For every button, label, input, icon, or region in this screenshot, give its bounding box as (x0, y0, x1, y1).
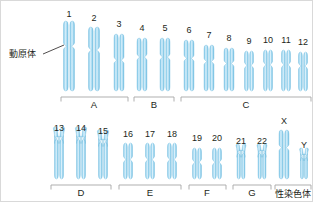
chromosome-number-3: 3 (116, 19, 121, 29)
chromosome-17 (146, 143, 155, 179)
chromosome-9 (245, 51, 254, 91)
chromosome-16 (124, 143, 133, 179)
chromatid (184, 40, 188, 91)
chromatid (269, 50, 273, 91)
chromosome-number-16: 16 (123, 129, 133, 139)
chromatid (279, 130, 283, 179)
chromosome-4 (137, 38, 147, 91)
chromosome-21 (236, 144, 246, 179)
chromatid (190, 40, 194, 91)
chromatid (198, 148, 202, 179)
chromosome-18 (168, 143, 177, 179)
centromere-label-text: 動原体 (9, 49, 36, 59)
chromosome-number-Y: Y (301, 140, 307, 150)
group-bracket-layer (51, 97, 311, 189)
chromatid (166, 38, 170, 91)
chromatid (60, 135, 64, 179)
chromatid (193, 148, 197, 179)
chromatid (287, 50, 291, 91)
chromosome-number-18: 18 (167, 129, 177, 139)
chromatid (70, 21, 75, 91)
chromosome-number-8: 8 (226, 33, 231, 43)
chromatid (104, 138, 108, 179)
karyotype-canvas: 12345678910111213141516171819202122XY AB… (1, 1, 313, 202)
chromatid (230, 48, 234, 91)
chromatid (89, 27, 94, 91)
chromatid (55, 135, 59, 179)
chromosome-number-7: 7 (206, 30, 211, 40)
chromosome-3 (114, 34, 124, 91)
group-label-F: F (204, 187, 210, 198)
chromosome-13 (53, 127, 64, 179)
chromosome-number-22: 22 (257, 136, 267, 146)
chromosome-19 (193, 148, 202, 179)
group-label-A: A (91, 99, 98, 110)
chromosome-20 (213, 148, 222, 179)
chromatid (305, 153, 308, 179)
chromatid (204, 45, 208, 91)
chromosome-number-9: 9 (246, 36, 251, 46)
chromosome-number-14: 14 (76, 123, 86, 133)
chromatid (143, 38, 147, 91)
chromosome-number-12: 12 (298, 37, 308, 47)
chromosome-number-13: 13 (54, 123, 64, 133)
centromere-annotation-label: 動原体 (9, 47, 36, 60)
chromatid (285, 130, 289, 179)
chromatid (245, 51, 249, 91)
group-label-E: E (147, 187, 153, 198)
chromosome-number-2: 2 (91, 13, 96, 23)
chromatid (173, 143, 177, 179)
chromosome-2 (89, 27, 100, 91)
chromatid (304, 52, 308, 91)
chromosome-11 (282, 50, 291, 91)
chromosome-8 (224, 48, 234, 91)
chromosome-number-1: 1 (66, 9, 71, 19)
centromere-pointer-layer (43, 45, 64, 54)
chromosome-number-20: 20 (212, 133, 222, 143)
chromatid (224, 48, 228, 91)
chromosome-number-17: 17 (145, 129, 155, 139)
karyotype-figure: 12345678910111213141516171819202122XY AB… (0, 0, 313, 202)
chromatid (137, 38, 141, 91)
chromosome-7 (204, 45, 214, 91)
chromatid (213, 148, 217, 179)
chromosome-number-11: 11 (281, 35, 290, 45)
chromatid (95, 27, 100, 91)
chromatid (64, 21, 69, 91)
group-label-G: G (248, 187, 255, 198)
chromatid (146, 143, 150, 179)
chromosome-number-10: 10 (263, 35, 273, 45)
chromatid (258, 149, 261, 179)
chromatid (129, 143, 133, 179)
chromatid (263, 149, 266, 179)
chromosome-1 (64, 21, 75, 91)
chromatid (237, 149, 240, 179)
chromatid (210, 45, 214, 91)
chromatid (168, 143, 172, 179)
chromosome-6 (184, 40, 194, 91)
chromosome-12 (299, 52, 308, 91)
chromosome-14 (75, 127, 86, 179)
chromatid (82, 135, 86, 179)
group-label-C: C (243, 99, 250, 110)
chromosome-10 (264, 50, 273, 91)
chromatid (124, 143, 128, 179)
group-label-D: D (78, 187, 85, 198)
chromosome-number-6: 6 (186, 25, 191, 35)
chromosome-number-15: 15 (98, 126, 108, 136)
chromatid (160, 38, 164, 91)
chromosome-22 (257, 144, 267, 179)
chromatid (151, 143, 155, 179)
chromosome-X (279, 130, 289, 179)
chromatid (77, 135, 81, 179)
chromatid (282, 50, 286, 91)
chromosome-number-21: 21 (236, 136, 246, 146)
chromosome-number-4: 4 (139, 23, 144, 33)
chromatid (264, 50, 268, 91)
chromosome-5 (160, 38, 170, 91)
group-label-sex: 性染色体 (275, 188, 311, 199)
chromatid (218, 148, 222, 179)
chromatid (99, 138, 103, 179)
chromosome-number-5: 5 (162, 23, 167, 33)
chromosome-15 (97, 130, 108, 179)
